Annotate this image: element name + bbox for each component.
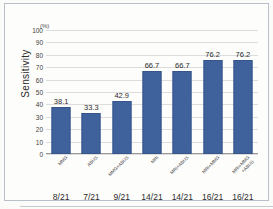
y-axis-tick-label: 40: [36, 101, 43, 108]
bars-group: 38.133.342.966.766.776.276.2: [46, 30, 258, 154]
y-axis-title: Sensitivity: [20, 26, 31, 122]
bar[interactable]: [203, 60, 222, 154]
fraction-labels-row: 8/217/219/2114/2114/2116/2116/21: [46, 192, 258, 206]
y-axis-tick-label: 80: [36, 51, 43, 58]
x-axis-category-text: MMG+ABUS: [107, 155, 130, 178]
fraction-label: 14/21: [141, 192, 162, 202]
fraction-label: 8/21: [53, 192, 70, 202]
bar[interactable]: [173, 71, 192, 154]
y-axis-tick-label: 10: [36, 138, 43, 145]
bar[interactable]: [233, 60, 252, 154]
bar-value-label: 38.1: [54, 97, 69, 106]
bar[interactable]: [112, 101, 131, 154]
bar-value-label: 33.3: [84, 103, 99, 112]
x-axis-category-text: MRI+MMG: [201, 155, 221, 175]
x-axis-category-text: MRI+ABUS: [170, 155, 191, 176]
bar-slot: 66.7: [167, 30, 197, 154]
y-axis-tick-label: 100: [32, 27, 43, 34]
bar-slot: 66.7: [137, 30, 167, 154]
chart-container: (%) Sensitivity 0102030405060708090100 3…: [10, 10, 263, 195]
bar-slot: 42.9: [107, 30, 137, 154]
fraction-label: 16/21: [202, 192, 223, 202]
bar-chart-figure: (%) Sensitivity 0102030405060708090100 3…: [0, 0, 273, 209]
y-axis-tick-label: 0: [39, 151, 43, 158]
y-axis-tick-label: 60: [36, 76, 43, 83]
fraction-label: 16/21: [232, 192, 253, 202]
plot-area: 0102030405060708090100 38.133.342.966.76…: [46, 30, 258, 154]
x-axis-category-labels: MMGABUSMMG+ABUSMRIMRI+ABUSMRI+MMGMRI+MMG…: [46, 155, 258, 189]
x-axis-category-text: MRI+MMG +ABUS: [231, 155, 255, 179]
y-axis-tick-label: 20: [36, 126, 43, 133]
bar-value-label: 66.7: [145, 61, 160, 70]
bar-value-label: 42.9: [114, 91, 129, 100]
bar[interactable]: [52, 107, 71, 154]
y-axis-tick-label: 50: [36, 89, 43, 96]
y-axis-tick-label: 70: [36, 64, 43, 71]
fraction-label: 14/21: [172, 192, 193, 202]
x-axis-category-text: MRI: [150, 155, 160, 165]
bar-value-label: 76.2: [205, 50, 220, 59]
x-axis-category-text: ABUS: [87, 155, 100, 168]
screenshot-root: (%) Sensitivity 0102030405060708090100 3…: [0, 0, 273, 209]
fraction-label: 7/21: [83, 192, 100, 202]
bar-slot: 38.1: [46, 30, 76, 154]
bar-slot: 76.2: [228, 30, 258, 154]
bottom-divider: [20, 206, 273, 207]
y-axis-tick-label: 30: [36, 113, 43, 120]
bar-slot: 76.2: [197, 30, 227, 154]
x-axis-category-text: MMG: [57, 155, 69, 167]
bar[interactable]: [82, 113, 101, 154]
bar-value-label: 66.7: [175, 61, 190, 70]
y-axis-tick-label: 90: [36, 39, 43, 46]
fraction-label: 9/21: [113, 192, 130, 202]
bar-value-label: 76.2: [236, 50, 251, 59]
bar-slot: 33.3: [76, 30, 106, 154]
